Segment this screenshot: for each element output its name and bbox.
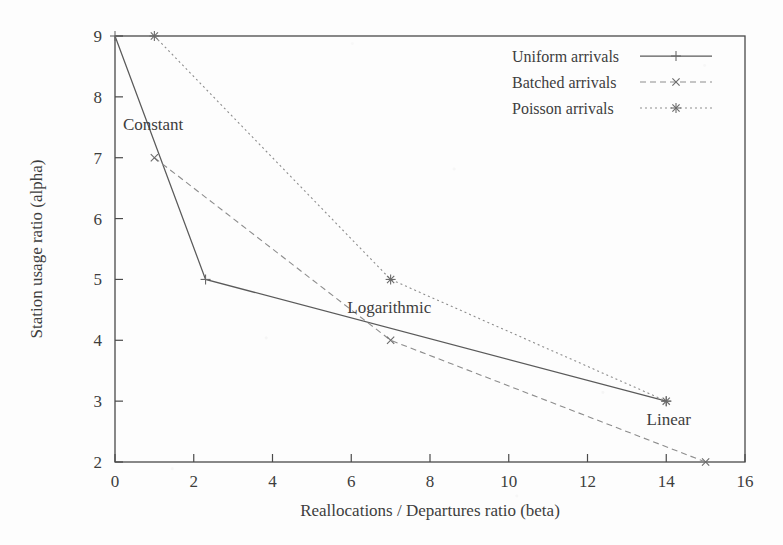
chart-page: 0246810121416 23456789 Reallocations / D… (0, 0, 783, 545)
data-point (201, 274, 211, 284)
annotation-logarithmic: Logarithmic (347, 298, 431, 317)
y-tick-label: 4 (94, 331, 103, 350)
legend-entry-poisson-arrivals[interactable]: Poisson arrivals (512, 100, 712, 117)
data-point (387, 337, 394, 344)
legend-entry-batched-arrivals[interactable]: Batched arrivals (512, 74, 712, 91)
legend-label: Batched arrivals (512, 74, 616, 91)
y-tick-label: 2 (94, 453, 103, 472)
annotation-layer: ConstantLogarithmicLinear (123, 115, 691, 429)
x-tick-label: 2 (190, 472, 199, 491)
legend-label: Poisson arrivals (512, 100, 614, 117)
x-tick-label: 12 (579, 472, 596, 491)
y-tick-label: 7 (94, 149, 103, 168)
x-tick-label: 16 (737, 472, 754, 491)
legend-marker (671, 51, 681, 61)
x-tick-label: 4 (268, 472, 277, 491)
legend-entry-uniform-arrivals[interactable]: Uniform arrivals (512, 48, 712, 65)
x-tick-label: 14 (658, 472, 676, 491)
y-tick-label: 5 (94, 270, 103, 289)
data-point (151, 154, 158, 161)
data-point (386, 274, 396, 284)
legend-marker (671, 103, 681, 113)
data-point (149, 31, 159, 41)
annotation-constant: Constant (123, 115, 184, 134)
annotation-linear: Linear (647, 410, 692, 429)
chart-legend: Uniform arrivalsBatched arrivalsPoisson … (512, 48, 712, 117)
plot-frame (115, 36, 745, 462)
x-tick-label: 8 (426, 472, 435, 491)
x-tick-label: 0 (111, 472, 120, 491)
y-axis-title: Station usage ratio (alpha) (27, 160, 46, 339)
y-tick-label: 3 (94, 392, 103, 411)
series-layer (110, 31, 709, 466)
data-point (661, 396, 671, 406)
line-chart: 0246810121416 23456789 Reallocations / D… (0, 0, 783, 545)
y-tick-label: 8 (94, 88, 103, 107)
x-axis-ticks: 0246810121416 (111, 454, 754, 491)
x-axis-title: Reallocations / Departures ratio (beta) (300, 501, 560, 520)
data-point (110, 31, 120, 41)
y-axis-ticks: 23456789 (94, 27, 124, 472)
y-tick-label: 6 (94, 210, 103, 229)
x-tick-label: 10 (500, 472, 517, 491)
legend-label: Uniform arrivals (512, 48, 619, 65)
x-tick-label: 6 (347, 472, 356, 491)
y-tick-label: 9 (94, 27, 103, 46)
